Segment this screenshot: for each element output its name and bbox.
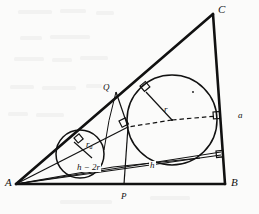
geometry-figure: A B C P Q r a ra h − 2r h (0, 0, 259, 214)
segment-tangency-to-P (124, 127, 128, 184)
point-label-P: P (121, 192, 127, 201)
side-BC (213, 14, 225, 184)
vertex-label-B: B (231, 177, 238, 188)
radius-label-ra-base: r (86, 139, 90, 149)
figure-canvas (0, 0, 259, 214)
vertex-label-A: A (5, 177, 12, 188)
segment-Q-to-tangency (116, 92, 128, 127)
incircle-center-point (171, 119, 173, 121)
point-label-Q: Q (103, 83, 110, 92)
right-angle-mark-small-circle (74, 134, 83, 143)
side-label-a: a (238, 111, 243, 120)
radius-label-ra-subscript: a (90, 144, 93, 150)
segment-label-h: h (149, 161, 156, 170)
incircle-center-dot (192, 91, 194, 93)
dashed-radius-left (128, 120, 172, 127)
radius-r-segment (146, 92, 172, 120)
segment-label-h-minus-2r: h − 2r (76, 163, 101, 172)
radius-label-ra: ra (86, 140, 93, 149)
vertex-label-C: C (218, 4, 225, 15)
dashed-radius-to-BC (172, 116, 217, 120)
radius-label-r: r (164, 105, 168, 114)
